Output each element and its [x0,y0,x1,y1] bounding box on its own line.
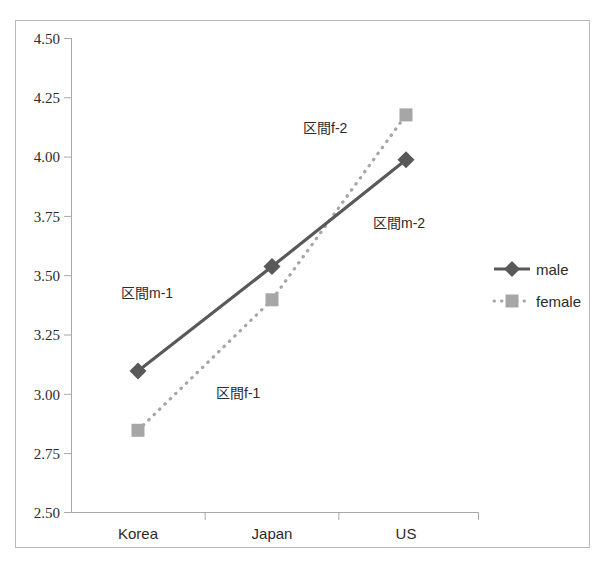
annotation-kukan-f-2: 区間f-2 [303,120,348,136]
y-tick-label-300: 3.00 [34,387,60,403]
x-axis-ticks [205,513,478,521]
line-chart: 4.50 4.25 4.00 3.75 3.50 3.25 3.00 2.75 … [16,21,591,549]
chart-frame: 4.50 4.25 4.00 3.75 3.50 3.25 3.00 2.75 … [15,20,590,548]
square-marker-icon [266,293,279,306]
legend-item-label-female: female [536,293,581,310]
series-male [130,151,415,379]
annotation-kukan-f-1: 区間f-1 [216,385,261,401]
legend-item-label-male: male [536,261,569,278]
y-tick-label-375: 3.75 [34,209,60,225]
x-category-label-korea: Korea [118,525,159,542]
x-category-label-japan: Japan [252,525,293,542]
annotation-kukan-m-2: 区間m-2 [373,215,425,231]
y-tick-label-275: 2.75 [34,446,60,462]
annotation-kukan-m-1: 区間m-1 [121,285,173,301]
y-tick-label-450: 4.50 [34,31,60,47]
y-axis-ticks [64,39,72,513]
y-tick-label-425: 4.25 [34,90,60,106]
y-tick-label-400: 4.00 [34,149,60,165]
y-tick-label-325: 3.25 [34,327,60,343]
square-marker-icon [132,424,145,437]
y-tick-label-250: 2.50 [34,505,60,521]
square-marker-icon [400,108,413,121]
square-marker-icon [506,295,519,308]
legend-item-female[interactable]: female [494,293,581,310]
chart-legend: male female [494,261,581,310]
y-tick-label-350: 3.50 [34,268,60,284]
diamond-marker-icon [504,261,520,277]
legend-item-male[interactable]: male [494,261,569,278]
x-category-label-us: US [396,525,417,542]
